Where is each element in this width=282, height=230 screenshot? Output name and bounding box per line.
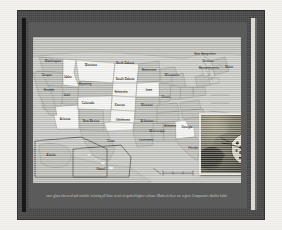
state-label: Nevada [44,88,54,92]
state-label: Mississippi [149,129,165,133]
screenshot-root: WashingtonOregonIdahoMontanaNorth Dakota… [0,0,282,230]
state-label: Louisiana [139,138,153,142]
state-label: Oklahoma [116,118,130,122]
state-label: Missouri [141,103,153,107]
slide-caption: ance glass observed and variable colorin… [37,191,237,201]
state-label: New Mexico [83,119,100,123]
us-state-map[interactable]: WashingtonOregonIdahoMontanaNorth Dakota… [33,37,241,183]
state-label: Alaska [46,153,55,157]
state-label: Idaho [64,75,72,79]
state-label: Hawaii [96,167,105,171]
state-label: Maine [225,65,233,69]
state-label: Georgia [182,125,193,129]
state-label: Minnesota [142,68,156,72]
state-label: Kansas [115,103,125,107]
state-label: Texas [107,139,115,143]
left-dark-bar [22,18,26,212]
state-label: Oregon [42,73,52,77]
state-label: Vermont [202,59,214,63]
right-bar-edge [255,18,257,210]
state-label: Utah [64,93,70,97]
state-label: Arizona [60,117,71,121]
butterfly-photograph[interactable] [199,113,241,175]
state-label: Iowa [146,88,152,92]
state-label: Wyoming [79,82,92,86]
state-label: Colorado [82,101,95,105]
state-label: Illinois [161,95,170,99]
state-label: North Dakota [116,61,134,65]
state-label: Alabama [164,124,176,128]
state-label: Massachusetts [199,66,220,70]
state-label: Florida [188,146,198,150]
caption-text: ance glass observed and variable colorin… [47,194,228,198]
state-label: New Hampshire [194,52,216,56]
state-label: Wisconsin [165,73,179,77]
photo-texture [201,115,241,173]
state-label: Arkansas [141,119,154,123]
state-label: Montana [85,63,97,67]
state-label: Washington [45,59,61,63]
state-label: Nebraska [115,90,128,94]
state-label: South Dakota [116,77,135,81]
